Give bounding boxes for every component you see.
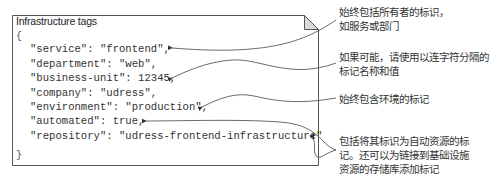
annotation-owner: 始终包括所有者的标识， 如服务或部门 [339, 5, 497, 33]
open-brace: { [16, 31, 22, 43]
code-line-repository: "repository": "udress-frontend-infrastru… [30, 130, 322, 142]
code-line-service: "service": "frontend", [30, 43, 170, 55]
annotation-automation-line-2: 记。还可以为链接到基础设施 [339, 148, 497, 162]
annotation-automation: 包括将其标识为自动资源的标 记。还可以为链接到基础设施 资源的存储库添加标记 [339, 134, 497, 176]
annotation-hyphenated-line-1: 如果可能，请使用以连字符分隔的 [339, 50, 497, 64]
annotation-hyphenated-line-2: 标记名称和值 [339, 64, 497, 78]
code-line-company: "company": "udress", [30, 87, 157, 99]
code-line-business-unit: "business-unit": 12345, [30, 72, 176, 84]
annotation-hyphenated: 如果可能，请使用以连字符分隔的 标记名称和值 [339, 50, 497, 78]
annotation-automation-line-3: 资源的存储库添加标记 [339, 162, 497, 176]
box-title: Infrastructure tags [16, 15, 97, 27]
annotation-owner-line-1: 始终包括所有者的标识， [339, 5, 497, 19]
annotation-environment-line-1: 始终包含环境的标记 [339, 92, 497, 106]
annotation-automation-line-1: 包括将其标识为自动资源的标 [339, 134, 497, 148]
code-line-environment: "environment": "production", [30, 101, 208, 113]
code-line-department: "department": "web", [30, 58, 157, 70]
close-brace: } [16, 150, 22, 162]
folded-corner [305, 16, 319, 30]
tagging-diagram: Infrastructure tags { "service": "fronte… [0, 0, 497, 182]
annotation-environment: 始终包含环境的标记 [339, 92, 497, 106]
annotation-owner-line-2: 如服务或部门 [339, 19, 497, 33]
code-line-automated: "automated": true, [30, 115, 144, 127]
